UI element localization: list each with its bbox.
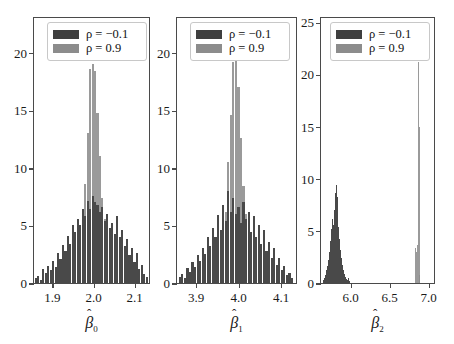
legend-swatch-icon-2 — [196, 44, 222, 53]
legend-entry-rho-neg-0-1[interactable]: ρ = −0.1 — [53, 28, 140, 41]
y-tick-1-3 — [29, 111, 34, 112]
y-tick-label-2-1: 5 — [140, 218, 170, 234]
legend-swatch-icon-2 — [53, 44, 79, 53]
y-tick-1-4 — [29, 53, 34, 54]
x-tick-label-1-2: 2.1 — [127, 290, 143, 306]
legend-swatch-icon-1 — [196, 30, 222, 39]
legend-2[interactable]: ρ = −0.1ρ = 0.9 — [190, 22, 290, 61]
y-tick-label-2-2: 10 — [140, 161, 170, 177]
x-tick-3-1 — [390, 283, 391, 288]
beta-subscript-2: 1 — [238, 324, 243, 334]
x-tick-1-0 — [52, 283, 53, 288]
y-tick-label-1-4: 20 — [0, 46, 27, 62]
y-tick-1-0 — [29, 283, 34, 284]
legend-swatch-icon-1 — [336, 30, 362, 39]
x-tick-label-1-1: 2.0 — [85, 290, 101, 306]
y-tick-3-2 — [316, 179, 321, 180]
y-tick-label-3-2: 10 — [284, 172, 314, 188]
figure-canvas: 051015201.92.02.1ˆβ0ρ = −0.1ρ = 0.905101… — [0, 0, 454, 344]
y-tick-label-2-3: 15 — [140, 103, 170, 119]
x-axis-title-2: ˆβ1 — [176, 314, 297, 334]
y-tick-label-1-1: 5 — [0, 218, 27, 234]
x-tick-label-3-1: 6.5 — [381, 290, 397, 306]
y-tick-label-1-2: 10 — [0, 161, 27, 177]
legend-entry-rho-0-9[interactable]: ρ = 0.9 — [53, 42, 140, 55]
x-tick-label-3-0: 6.0 — [342, 290, 358, 306]
x-axis-title-1: ˆβ0 — [33, 314, 150, 334]
y-tick-2-2 — [172, 168, 177, 169]
x-tick-1-1 — [94, 283, 95, 288]
legend-label-2: ρ = 0.9 — [86, 41, 121, 56]
y-tick-label-3-0: 0 — [284, 276, 314, 292]
y-tick-label-1-0: 0 — [0, 276, 27, 292]
legend-1[interactable]: ρ = −0.1ρ = 0.9 — [47, 22, 147, 61]
x-tick-1-2 — [135, 283, 136, 288]
y-tick-label-2-0: 0 — [140, 276, 170, 292]
legend-label-2: ρ = 0.9 — [229, 41, 264, 56]
legend-label-1: ρ = −0.1 — [86, 27, 128, 42]
y-tick-2-4 — [172, 53, 177, 54]
x-tick-label-2-0: 3.9 — [188, 290, 204, 306]
x-axis-title-3: ˆβ2 — [320, 314, 435, 334]
histogram-bar — [419, 275, 420, 283]
y-tick-label-1-3: 15 — [0, 103, 27, 119]
y-tick-3-0 — [316, 283, 321, 284]
x-tick-2-1 — [239, 283, 240, 288]
x-tick-label-2-2: 4.1 — [273, 290, 289, 306]
y-tick-label-3-4: 20 — [284, 67, 314, 83]
x-tick-label-2-1: 4.0 — [231, 290, 247, 306]
x-tick-label-3-2: 7.0 — [420, 290, 436, 306]
legend-label-1: ρ = −0.1 — [369, 27, 411, 42]
legend-label-2: ρ = 0.9 — [369, 41, 404, 56]
legend-3[interactable]: ρ = −0.1ρ = 0.9 — [330, 22, 430, 61]
legend-label-1: ρ = −0.1 — [229, 27, 271, 42]
y-tick-3-3 — [316, 127, 321, 128]
x-tick-3-0 — [351, 283, 352, 288]
y-tick-2-0 — [172, 283, 177, 284]
legend-entry-rho-0-9[interactable]: ρ = 0.9 — [336, 42, 423, 55]
legend-entry-rho-0-9[interactable]: ρ = 0.9 — [196, 42, 283, 55]
histogram-bar — [349, 281, 350, 283]
y-tick-3-1 — [316, 231, 321, 232]
x-tick-3-2 — [429, 283, 430, 288]
y-tick-3-5 — [316, 23, 321, 24]
y-tick-label-3-1: 5 — [284, 224, 314, 240]
legend-entry-rho-neg-0-1[interactable]: ρ = −0.1 — [196, 28, 283, 41]
y-tick-2-3 — [172, 111, 177, 112]
x-tick-2-2 — [281, 283, 282, 288]
y-tick-3-4 — [316, 75, 321, 76]
y-tick-1-2 — [29, 168, 34, 169]
x-tick-label-1-0: 1.9 — [44, 290, 60, 306]
hat-accent-1: ˆ — [87, 306, 91, 322]
legend-swatch-icon-2 — [336, 44, 362, 53]
y-tick-1-1 — [29, 226, 34, 227]
hat-accent-3: ˆ — [373, 306, 377, 322]
legend-swatch-icon-1 — [53, 30, 79, 39]
hat-accent-2: ˆ — [232, 306, 236, 322]
y-tick-label-3-3: 15 — [284, 120, 314, 136]
histogram-bar — [419, 127, 420, 283]
beta-subscript-1: 0 — [93, 324, 98, 334]
beta-subscript-3: 2 — [379, 324, 384, 334]
x-tick-2-0 — [196, 283, 197, 288]
legend-entry-rho-neg-0-1[interactable]: ρ = −0.1 — [336, 28, 423, 41]
y-tick-2-1 — [172, 226, 177, 227]
